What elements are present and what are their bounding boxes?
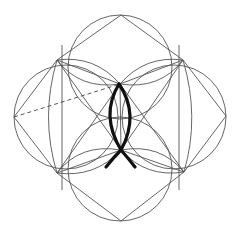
circle-right bbox=[122, 65, 226, 169]
chords bbox=[14, 15, 226, 221]
circles bbox=[14, 15, 226, 221]
geometry-diagram bbox=[0, 0, 239, 232]
diagram-canvas bbox=[0, 0, 239, 232]
circle-bottom bbox=[68, 117, 172, 221]
circle-left bbox=[14, 65, 118, 169]
dashed-line bbox=[14, 84, 120, 117]
